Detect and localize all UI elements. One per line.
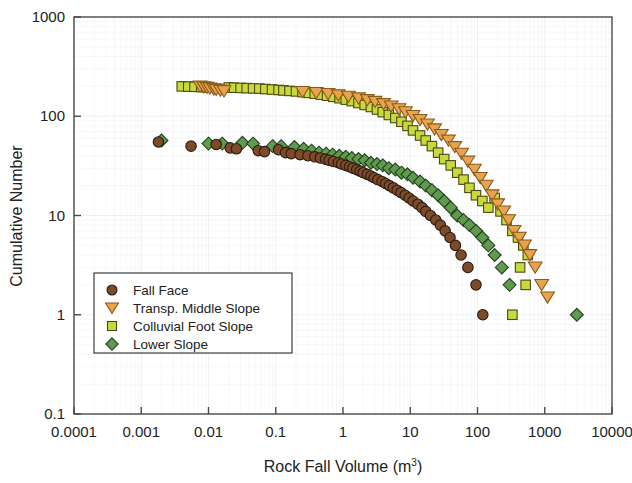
data-point [153,137,163,147]
x-tick-labels: 0.00010.0010.010.1110100100010000 [51,423,632,440]
legend-item-label: Transp. Middle Slope [133,301,260,316]
legend-item-label: Fall Face [133,283,189,298]
data-point [463,262,473,272]
data-point [484,203,494,213]
legend: Fall FaceTransp. Middle SlopeColluvial F… [94,273,292,353]
data-point [508,310,518,320]
x-tick-label: 100 [465,423,490,440]
data-point [456,250,466,260]
legend-item-label: Colluvial Foot Slope [133,319,253,334]
x-axis-title: Rock Fall Volume (m3) [264,457,422,475]
legend-marker-circle-icon [107,285,117,295]
data-point [259,146,269,156]
data-point [515,263,525,273]
x-tick-label: 0.001 [122,423,160,440]
legend-item-label: Lower Slope [133,337,208,352]
y-tick-label: 1 [57,306,65,323]
y-tick-label: 100 [40,107,65,124]
x-tick-label: 0.1 [265,423,286,440]
x-tick-label: 0.0001 [51,423,97,440]
x-tick-label: 10 [402,423,419,440]
data-point [211,139,221,149]
legend-marker-square-icon [108,322,117,331]
y-axis-title: Cumulative Number [8,145,25,287]
data-point [231,144,241,154]
data-point [450,240,460,250]
data-point [521,280,531,290]
data-point [471,280,481,290]
y-tick-label: 10 [48,207,65,224]
x-tick-label: 10000 [591,423,632,440]
data-point [478,310,488,320]
x-axis-title-tail: ) [417,458,422,475]
y-tick-label: 0.1 [44,405,65,422]
y-tick-label: 1000 [32,8,65,25]
chart-svg: 0.00010.0010.010.1110100100010000 100010… [0,0,632,483]
data-point [186,141,196,151]
x-tick-label: 1000 [528,423,561,440]
x-axis-title-main: Rock Fall Volume (m [264,458,412,475]
rock-fall-volume-chart: 0.00010.0010.010.1110100100010000 100010… [0,0,632,483]
x-tick-label: 1 [339,423,347,440]
x-tick-label: 0.01 [194,423,223,440]
